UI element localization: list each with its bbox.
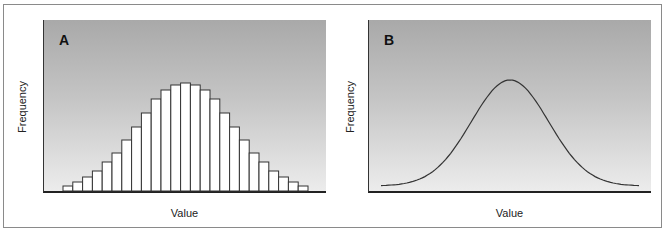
curve-line (381, 80, 639, 186)
histogram-bar (63, 186, 73, 191)
histogram-bar (239, 140, 249, 191)
histogram-bar (92, 171, 102, 191)
histogram-bar (161, 90, 171, 191)
histogram-bar (112, 153, 122, 191)
histogram-bar (73, 182, 83, 191)
y-axis-label-a: Frequency (16, 81, 28, 133)
histogram-bar (181, 83, 191, 191)
histogram-bar (200, 90, 210, 191)
normal-curve (369, 20, 652, 193)
histogram-bar (259, 162, 269, 191)
panel-label-a: A (59, 32, 69, 48)
histogram-bar (220, 113, 230, 191)
histogram-bar (279, 177, 289, 191)
histogram-bar (83, 177, 93, 191)
histogram-bar (210, 99, 220, 191)
x-axis-label-a: Value (43, 207, 326, 219)
histogram-bar (171, 85, 181, 191)
histogram-bar (151, 99, 161, 191)
histogram-bar (249, 153, 259, 191)
histogram-bar (141, 113, 151, 191)
histogram-bar (269, 171, 279, 191)
histogram-bar (190, 85, 200, 191)
curve-plot-b: B (368, 20, 651, 193)
histogram-bar (298, 186, 308, 191)
y-axis-label-b: Frequency (344, 81, 356, 133)
histogram-bar (230, 127, 240, 191)
histogram-bars (44, 20, 327, 193)
histogram-bar (132, 127, 142, 191)
histogram-bar (288, 182, 298, 191)
histogram-plot-a: A (43, 20, 326, 193)
panel-label-b: B (384, 32, 394, 48)
histogram-bar (122, 140, 132, 191)
histogram-bar (102, 162, 112, 191)
x-axis-label-b: Value (368, 207, 651, 219)
